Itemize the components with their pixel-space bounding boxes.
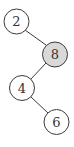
- edge-2-to-8: [25, 30, 46, 45]
- node-label: 4: [18, 81, 26, 96]
- tree-node-2: 2: [4, 9, 29, 34]
- tree-node-6: 6: [44, 110, 69, 135]
- node-label: 6: [52, 115, 60, 130]
- edge-4-to-6: [31, 97, 48, 113]
- tree-node-4: 4: [10, 76, 35, 101]
- binary-tree-diagram: 2 8 4 6: [0, 0, 74, 147]
- node-label: 2: [12, 14, 20, 29]
- edge-8-to-4: [31, 63, 46, 79]
- node-label: 8: [51, 47, 59, 62]
- tree-node-8-highlighted: 8: [43, 42, 68, 67]
